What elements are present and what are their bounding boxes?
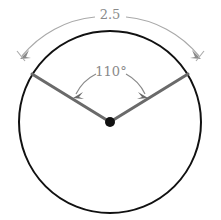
angle-label: 110° xyxy=(95,64,126,79)
radius-line-right xyxy=(110,74,188,122)
angle-arc-right-arrowhead xyxy=(137,92,148,99)
geometry-canvas: 2.5 110° xyxy=(0,0,221,220)
angle-arc-right-segment xyxy=(126,74,145,94)
radius-line-left xyxy=(32,74,110,122)
arc-dimension-right-segment xyxy=(126,17,199,56)
arc-dimension-left-segment xyxy=(22,17,95,56)
angle-arc-left-arrowhead xyxy=(73,92,84,99)
geometry-figure: 2.5 110° xyxy=(0,0,221,220)
angle-arc-left-segment xyxy=(76,74,96,94)
arc-length-label: 2.5 xyxy=(100,7,121,22)
center-dot xyxy=(105,117,115,127)
